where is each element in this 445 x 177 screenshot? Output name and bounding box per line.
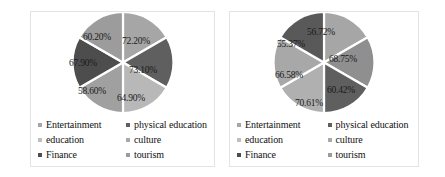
chart-panel-right: 56.72%68.75%60.42%70.61%66.58%55.37% Ent… xyxy=(229,11,419,167)
pie-slice-label: 72.20% xyxy=(122,36,150,46)
legend-item-label: Entertainment xyxy=(245,118,300,131)
pie-slice-label: 67.90% xyxy=(69,58,97,68)
legend-item[interactable]: physical education xyxy=(126,118,214,131)
legend-swatch-icon xyxy=(237,138,241,142)
pie-slice-label: 58.60% xyxy=(78,86,106,96)
legend-swatch-icon xyxy=(38,138,42,142)
charts-container: 72.20%73.10%64.90%58.60%67.90%60.20% Ent… xyxy=(0,0,445,177)
legend-item[interactable]: Entertainment xyxy=(237,118,328,131)
legend-swatch-icon xyxy=(38,123,42,127)
pie-plot-area-left: 72.20%73.10%64.90%58.60%67.90%60.20% xyxy=(31,12,214,115)
pie-slice-label: 70.61% xyxy=(295,98,323,108)
legend-item-label: tourism xyxy=(134,148,164,161)
legend-item-label: culture xyxy=(134,133,161,146)
legend-item-label: tourism xyxy=(336,148,366,161)
legend-item-label: culture xyxy=(336,133,363,146)
legend-item[interactable]: tourism xyxy=(126,148,214,161)
pie-slice-label: 68.75% xyxy=(329,54,357,64)
pie-slice-label: 60.42% xyxy=(327,85,355,95)
legend-swatch-icon xyxy=(126,138,130,142)
chart-panel-left: 72.20%73.10%64.90%58.60%67.90%60.20% Ent… xyxy=(30,11,215,167)
legend-item-label: Finance xyxy=(46,148,77,161)
pie-slice-label: 66.58% xyxy=(275,70,303,80)
legend-item[interactable]: Finance xyxy=(237,148,328,161)
legend-item-label: physical education xyxy=(336,118,409,131)
pie-slice-label: 73.10% xyxy=(129,65,157,75)
legend-item-label: education xyxy=(245,133,283,146)
legend-item[interactable]: tourism xyxy=(328,148,419,161)
legend-swatch-icon xyxy=(38,153,42,157)
legend-swatch-icon xyxy=(126,123,130,127)
legend-right: Entertainmentphysical educationeducation… xyxy=(230,118,418,161)
legend-swatch-icon xyxy=(126,153,130,157)
pie-slice-label: 55.37% xyxy=(277,39,305,49)
legend-item[interactable]: culture xyxy=(126,133,214,146)
legend-swatch-icon xyxy=(237,123,241,127)
legend-item[interactable]: education xyxy=(237,133,328,146)
legend-swatch-icon xyxy=(328,123,332,127)
legend-item[interactable]: Finance xyxy=(38,148,126,161)
pie-plot-area-right: 56.72%68.75%60.42%70.61%66.58%55.37% xyxy=(230,12,418,115)
legend-item[interactable]: Entertainment xyxy=(38,118,126,131)
legend-item[interactable]: education xyxy=(38,133,126,146)
legend-item-label: education xyxy=(46,133,84,146)
legend-item-label: Entertainment xyxy=(46,118,101,131)
legend-item-label: physical education xyxy=(134,118,207,131)
legend-item-label: Finance xyxy=(245,148,276,161)
pie-slice-label: 64.90% xyxy=(117,93,145,103)
legend-swatch-icon xyxy=(237,153,241,157)
legend-item[interactable]: culture xyxy=(328,133,419,146)
pie-slice-label: 60.20% xyxy=(83,32,111,42)
legend-swatch-icon xyxy=(328,138,332,142)
legend-swatch-icon xyxy=(328,153,332,157)
pie-slice-label: 56.72% xyxy=(307,27,335,37)
legend-left: Entertainmentphysical educationeducation… xyxy=(31,118,214,161)
legend-item[interactable]: physical education xyxy=(328,118,419,131)
